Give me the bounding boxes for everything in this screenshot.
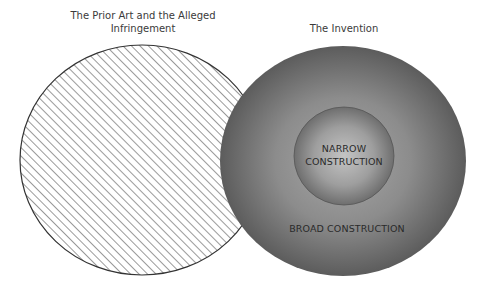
prior-art-title: The Prior Art and the Alleged Infringeme… bbox=[43, 9, 243, 35]
broad-construction-label: BROAD CONSTRUCTION bbox=[277, 222, 417, 235]
venn-diagram: The Prior Art and the Alleged Infringeme… bbox=[0, 0, 481, 287]
narrow-construction-line1: NARROW bbox=[294, 142, 394, 155]
narrow-construction-label: NARROW CONSTRUCTION bbox=[294, 142, 394, 168]
prior-art-title-line1: The Prior Art and the Alleged bbox=[43, 9, 243, 22]
invention-title: The Invention bbox=[294, 22, 394, 35]
narrow-construction-line2: CONSTRUCTION bbox=[294, 155, 394, 168]
prior-art-title-line2: Infringement bbox=[43, 22, 243, 35]
diagram-canvas bbox=[0, 0, 481, 287]
